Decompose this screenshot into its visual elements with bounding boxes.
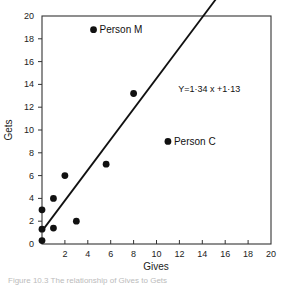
plot-frame [42, 16, 271, 244]
point-annotation: Person C [174, 136, 216, 147]
x-tick-label: 2 [62, 249, 67, 259]
y-tick-label: 8 [29, 148, 34, 158]
x-axis-label: Gives [143, 261, 169, 272]
data-point [50, 195, 57, 202]
y-axis-label: Gets [3, 119, 14, 140]
data-point [130, 90, 137, 97]
y-tick-label: 6 [29, 171, 34, 181]
plot-border [42, 16, 271, 244]
data-point [103, 161, 110, 168]
y-tick-label: 18 [24, 34, 34, 44]
y-tick-label: 4 [29, 193, 34, 203]
x-tick-label: 14 [197, 249, 207, 259]
data-point [39, 226, 46, 233]
figure-caption: Figure 10.3 The relationship of Gives to… [8, 276, 167, 285]
annotations: Person MPerson CY=1·34 x +1·13 [100, 24, 241, 147]
y-tick-label: 10 [24, 125, 34, 135]
x-tick-label: 4 [85, 249, 90, 259]
data-point [73, 218, 80, 225]
data-point [50, 225, 57, 232]
data-point [39, 206, 46, 213]
y-tick-label: 20 [24, 11, 34, 21]
point-annotation: Person M [100, 24, 143, 35]
scatter-chart: 02468101214161820 2468101214161820 Gets … [0, 0, 291, 276]
y-tick-label: 0 [29, 239, 34, 249]
y-tick-label: 16 [24, 57, 34, 67]
y-tick-label: 2 [29, 216, 34, 226]
x-axis-ticks: 2468101214161820 [62, 240, 276, 259]
x-tick-label: 8 [131, 249, 136, 259]
x-tick-label: 12 [174, 249, 184, 259]
y-axis-ticks: 02468101214161820 [24, 11, 42, 249]
data-point [62, 172, 69, 179]
data-points [39, 26, 172, 244]
data-point [39, 237, 46, 244]
x-tick-label: 20 [266, 249, 276, 259]
data-point [90, 26, 97, 33]
x-tick-label: 16 [220, 249, 230, 259]
x-tick-label: 18 [243, 249, 253, 259]
y-tick-label: 12 [24, 102, 34, 112]
data-point [165, 138, 172, 145]
regression-equation: Y=1·34 x +1·13 [178, 84, 240, 94]
x-tick-label: 10 [151, 249, 161, 259]
y-tick-label: 14 [24, 79, 34, 89]
x-tick-label: 6 [108, 249, 113, 259]
